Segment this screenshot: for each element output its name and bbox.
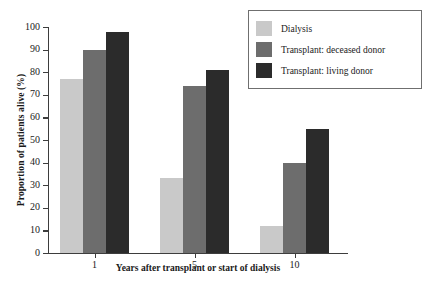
y-tick: 100 bbox=[43, 27, 48, 28]
legend-item-dialysis: Dialysis bbox=[256, 18, 413, 39]
y-tick: 50 bbox=[43, 140, 48, 141]
legend-swatch-deceased-donor bbox=[256, 42, 272, 57]
bar-1-dialysis bbox=[60, 79, 83, 253]
x-tick bbox=[95, 253, 96, 258]
bar-10-transplant-deceased-donor bbox=[283, 163, 306, 253]
y-tick: 80 bbox=[43, 72, 48, 73]
bar-5-dialysis bbox=[160, 178, 183, 253]
bar-10-dialysis bbox=[260, 226, 283, 253]
y-tick-label: 50 bbox=[30, 133, 40, 147]
y-tick: 30 bbox=[43, 185, 48, 186]
y-tick-label: 60 bbox=[30, 110, 40, 124]
legend-swatch-dialysis bbox=[256, 21, 272, 36]
y-tick: 0 bbox=[43, 253, 48, 254]
y-tick: 10 bbox=[43, 230, 48, 231]
y-tick: 60 bbox=[43, 117, 48, 118]
legend-item-deceased-donor: Transplant: deceased donor bbox=[256, 39, 413, 60]
legend-label-dialysis: Dialysis bbox=[281, 23, 312, 35]
y-tick-label: 30 bbox=[30, 178, 40, 192]
y-tick-label: 20 bbox=[30, 200, 40, 214]
y-tick-label: 100 bbox=[25, 20, 40, 34]
y-tick-label: 40 bbox=[30, 155, 40, 169]
y-tick: 20 bbox=[43, 208, 48, 209]
x-tick bbox=[295, 253, 296, 258]
x-axis-title: Years after transplant or start of dialy… bbox=[48, 263, 348, 273]
legend-swatch-living-donor bbox=[256, 63, 272, 78]
y-tick-label: 80 bbox=[30, 65, 40, 79]
bar-1-transplant-living-donor bbox=[106, 32, 129, 253]
bar-5-transplant-deceased-donor bbox=[183, 86, 206, 253]
legend-item-living-donor: Transplant: living donor bbox=[256, 60, 413, 81]
bar-chart-figure: Proportion of patients alive (%) 0102030… bbox=[0, 0, 432, 283]
x-tick bbox=[195, 253, 196, 258]
bar-10-transplant-living-donor bbox=[306, 129, 329, 253]
y-tick: 70 bbox=[43, 95, 48, 96]
legend-label-living-donor: Transplant: living donor bbox=[281, 65, 373, 77]
y-axis-title: Proportion of patients alive (%) bbox=[16, 40, 26, 240]
x-axis-line bbox=[48, 253, 348, 254]
y-tick-label: 90 bbox=[30, 42, 40, 56]
legend-label-deceased-donor: Transplant: deceased donor bbox=[281, 44, 385, 56]
bar-5-transplant-living-donor bbox=[206, 70, 229, 253]
y-tick-label: 10 bbox=[30, 223, 40, 237]
chart-legend: Dialysis Transplant: deceased donor Tran… bbox=[248, 10, 422, 89]
y-tick: 90 bbox=[43, 50, 48, 51]
y-tick-label: 70 bbox=[30, 87, 40, 101]
y-tick: 40 bbox=[43, 163, 48, 164]
y-tick-label: 0 bbox=[35, 246, 40, 260]
bar-1-transplant-deceased-donor bbox=[83, 50, 106, 253]
